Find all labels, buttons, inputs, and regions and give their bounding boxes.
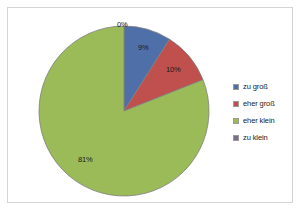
pie-slices [39,26,209,196]
slice-data-label-zu-klein: 0% [117,20,127,29]
legend-swatch-icon-eher-gross [233,101,239,107]
slice-data-label-eher-klein: 81% [78,155,92,164]
legend-item-zu-gross[interactable]: zu groß [233,78,302,95]
pie-chart-figure: 0% 9% 10% 81% zu groß eher groß eher kle… [0,0,302,214]
slice-data-label-eher-gross: 10% [166,65,180,74]
legend-label-zu-klein: zu klein [243,133,268,142]
legend-item-zu-klein[interactable]: zu klein [233,129,302,146]
legend-item-eher-gross[interactable]: eher groß [233,95,302,112]
legend-swatch-icon-eher-klein [233,118,239,124]
pie-svg [37,24,211,198]
legend-label-zu-gross: zu groß [243,82,268,91]
legend-label-eher-gross: eher groß [243,99,275,108]
chart-frame: 0% 9% 10% 81% zu groß eher groß eher kle… [7,7,293,203]
chart-legend: zu groß eher groß eher klein zu klein [233,78,302,146]
chart-plot-area: 0% 9% 10% 81% zu groß eher groß eher kle… [8,8,294,204]
legend-swatch-icon-zu-klein [233,135,239,141]
legend-label-eher-klein: eher klein [243,116,275,125]
legend-swatch-icon-zu-gross [233,84,239,90]
legend-item-eher-klein[interactable]: eher klein [233,112,302,129]
slice-data-label-zu-gross: 9% [138,43,148,52]
